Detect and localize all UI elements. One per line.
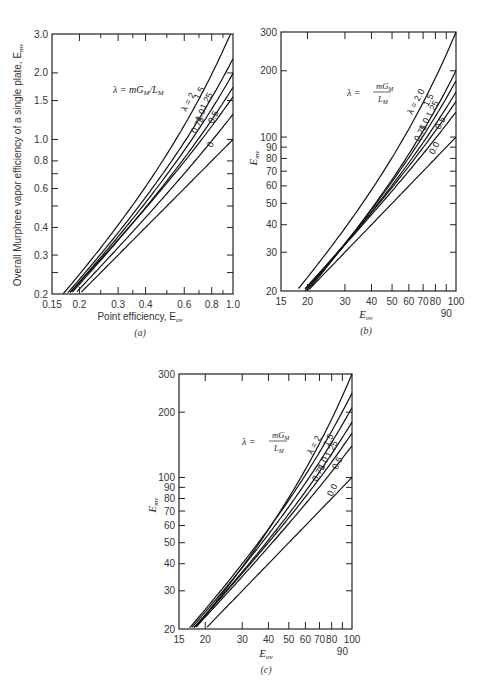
- y-tick-label: 300: [158, 369, 175, 380]
- svg-text:mGM: mGM: [376, 81, 394, 92]
- panel-a-label: (a): [134, 327, 146, 339]
- panel-c-x-axis-title: Eov: [258, 647, 273, 661]
- curve-lambda-2: [299, 32, 457, 289]
- x-tick-label: 0.15: [42, 299, 62, 310]
- y-tick-label: 80: [164, 493, 176, 504]
- y-tick-label: 0.2: [34, 289, 48, 300]
- chart-panel-a: 0.150.20.30.40.60.81.00.20.30.40.60.81.0…: [34, 29, 240, 311]
- y-tick-label: 50: [266, 198, 278, 209]
- y-tick-label: 20: [266, 286, 278, 297]
- plot-frame: [179, 374, 352, 629]
- y-tick-label: 0.3: [34, 250, 48, 261]
- plot-frame: [52, 34, 233, 294]
- y-tick-label: 1.5: [34, 95, 48, 106]
- x-tick-label: 80: [430, 296, 442, 307]
- x-tick-label: 60: [403, 296, 415, 307]
- curve-label: 0.0: [325, 482, 340, 498]
- x-tick-label: 30: [237, 634, 249, 645]
- x-tick-label: 50: [386, 296, 398, 307]
- y-tick-label: 80: [266, 153, 278, 164]
- y-tick-label: 30: [266, 247, 278, 258]
- curve-lambda-2: [196, 374, 352, 627]
- y-tick-label: 30: [164, 585, 176, 596]
- y-tick-label: 90: [164, 482, 176, 493]
- y-tick-label: 90: [266, 142, 278, 153]
- y-tick-label: 60: [164, 520, 176, 531]
- y-tick-label: 40: [266, 219, 278, 230]
- chart-panel-c: 1520304050607080901002030405060708090100…: [158, 369, 360, 658]
- panel-a-lambda-annotation: λ = mGM/LM: [112, 84, 165, 97]
- svg-text:mGM: mGM: [272, 430, 290, 441]
- y-tick-label: 70: [266, 166, 278, 177]
- panel-a-x-axis-title: Point efficiency, Eov: [97, 311, 183, 324]
- x-tick-label: 15: [173, 634, 185, 645]
- x-tick-label: 0.6: [177, 299, 191, 310]
- x-tick-label: 0.4: [139, 299, 153, 310]
- x-tick-label: 20: [200, 634, 212, 645]
- svg-text:LM: LM: [377, 94, 389, 105]
- chart-panel-b: 1520304050607080901002030405060708090100…: [260, 27, 464, 320]
- panel-a-y-axis-title: Overall Murphree vapor efficiency of a s…: [12, 43, 25, 286]
- y-tick-label: 60: [266, 180, 278, 191]
- x-tick-label: 1.0: [226, 299, 240, 310]
- y-tick-label: 1.0: [34, 134, 48, 145]
- curve-lambda-2: [63, 34, 230, 294]
- x-tick-label: 70: [314, 634, 326, 645]
- y-tick-label: 20: [164, 624, 176, 635]
- y-tick-label: 0.8: [34, 155, 48, 166]
- x-tick-label: 40: [366, 296, 378, 307]
- panel-b-lambda-annotation: λ = mGM LM: [346, 81, 394, 105]
- x-tick-label: 70: [418, 296, 430, 307]
- y-tick-label: 50: [164, 537, 176, 548]
- curve-lambda-0: [207, 477, 352, 627]
- figure-canvas: 0.150.20.30.40.60.81.00.20.30.40.60.81.0…: [0, 0, 486, 683]
- y-tick-label: 100: [260, 132, 277, 143]
- x-tick-label: 50: [283, 634, 295, 645]
- y-tick-label: 3.0: [34, 29, 48, 40]
- panel-b-y-axis-title: Emv: [247, 150, 261, 167]
- x-tick-label: 30: [339, 296, 351, 307]
- y-tick-label: 40: [164, 558, 176, 569]
- y-tick-label: 100: [158, 472, 175, 483]
- y-tick-label: 70: [164, 506, 176, 517]
- x-tick-label: 0.3: [111, 299, 125, 310]
- x-tick-label: 0.2: [72, 299, 86, 310]
- curve-lambda-1: [305, 92, 456, 291]
- x-tick-label: 15: [275, 296, 287, 307]
- y-tick-label: 2.0: [34, 67, 48, 78]
- panel-c-label: (c): [260, 664, 272, 676]
- y-tick-label: 0.4: [34, 222, 48, 233]
- x-tick-label: 90: [337, 646, 349, 657]
- y-tick-label: 200: [158, 407, 175, 418]
- y-tick-label: 300: [260, 27, 277, 38]
- svg-text:λ =: λ =: [241, 436, 256, 447]
- x-tick-label: 0.8: [205, 299, 219, 310]
- x-tick-label: 20: [302, 296, 314, 307]
- svg-text:LM: LM: [273, 443, 285, 454]
- panel-c-lambda-annotation: λ = mGM LM: [241, 430, 290, 454]
- curve-lambda-0: [309, 137, 456, 289]
- x-tick-label: 100: [344, 634, 361, 645]
- plot-frame: [281, 32, 456, 291]
- x-tick-label: 40: [263, 634, 275, 645]
- x-tick-label: 90: [441, 308, 453, 319]
- y-tick-label: 0.6: [34, 183, 48, 194]
- curve-label: 0.5: [206, 109, 221, 125]
- panel-b-label: (b): [360, 325, 372, 337]
- svg-text:λ =: λ =: [346, 87, 361, 98]
- curve-lambda-0: [81, 140, 233, 293]
- x-tick-label: 60: [300, 634, 312, 645]
- x-tick-label: 100: [448, 296, 465, 307]
- panel-b-x-axis-title: Eov: [358, 308, 373, 322]
- x-tick-label: 80: [326, 634, 338, 645]
- curve-lambda-0-5: [77, 114, 233, 291]
- y-tick-label: 200: [260, 65, 277, 76]
- curve-label: λ = 2: [305, 434, 323, 456]
- panel-c-y-axis-title: Emv: [146, 497, 160, 514]
